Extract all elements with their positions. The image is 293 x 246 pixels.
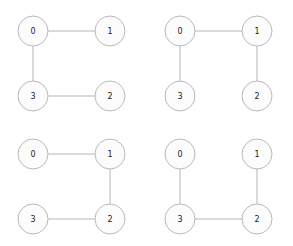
node-group: 0123 <box>165 16 272 111</box>
node-label: 1 <box>107 150 112 159</box>
graph-canvas: 0123 <box>147 0 293 123</box>
graph-panel-top-right: 0123 <box>147 0 293 123</box>
node-label: 3 <box>177 92 182 101</box>
node-label: 0 <box>177 27 182 36</box>
graph-panel-bottom-right: 0123 <box>147 123 293 246</box>
graph-node-0: 0 <box>165 139 195 169</box>
node-label: 0 <box>30 27 35 36</box>
node-label: 0 <box>177 150 182 159</box>
graph-figure: 0123 0123 0123 0123 <box>0 0 293 246</box>
graph-node-3: 3 <box>165 204 195 234</box>
graph-node-0: 0 <box>18 16 48 46</box>
graph-node-1: 1 <box>242 139 272 169</box>
graph-node-1: 1 <box>242 16 272 46</box>
graph-node-3: 3 <box>18 204 48 234</box>
node-label: 2 <box>254 215 259 224</box>
graph-canvas: 0123 <box>147 123 293 246</box>
graph-canvas: 0123 <box>0 0 146 123</box>
node-label: 3 <box>30 215 35 224</box>
node-label: 2 <box>254 92 259 101</box>
node-label: 2 <box>107 92 112 101</box>
graph-node-2: 2 <box>242 81 272 111</box>
graph-canvas: 0123 <box>0 123 146 246</box>
graph-panel-bottom-left: 0123 <box>0 123 146 246</box>
graph-panel-top-left: 0123 <box>0 0 146 123</box>
node-group: 0123 <box>18 139 125 234</box>
node-group: 0123 <box>165 139 272 234</box>
node-label: 3 <box>177 215 182 224</box>
node-label: 3 <box>30 92 35 101</box>
node-label: 0 <box>30 150 35 159</box>
node-group: 0123 <box>18 16 125 111</box>
graph-node-2: 2 <box>242 204 272 234</box>
graph-node-0: 0 <box>165 16 195 46</box>
graph-node-3: 3 <box>165 81 195 111</box>
graph-node-1: 1 <box>95 16 125 46</box>
node-label: 1 <box>254 27 259 36</box>
graph-node-1: 1 <box>95 139 125 169</box>
graph-node-3: 3 <box>18 81 48 111</box>
node-label: 1 <box>254 150 259 159</box>
node-label: 2 <box>107 215 112 224</box>
graph-node-2: 2 <box>95 204 125 234</box>
graph-node-2: 2 <box>95 81 125 111</box>
node-label: 1 <box>107 27 112 36</box>
graph-node-0: 0 <box>18 139 48 169</box>
